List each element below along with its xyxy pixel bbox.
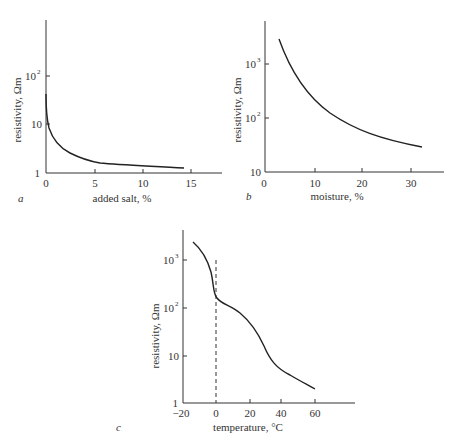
chart-a-xtick-15: 15 <box>186 177 198 189</box>
chart-c-xlabel: temperature, °C <box>213 421 283 433</box>
chart-a-xtick-5: 5 <box>92 177 98 189</box>
chart-c-xtick-m20: −20 <box>172 407 190 419</box>
chart-a-xtick-0: 0 <box>43 177 49 189</box>
chart-c-xtick-60: 60 <box>310 407 322 419</box>
chart-b-xtick-10: 10 <box>310 177 322 189</box>
chart-b-ytick-100: 10 <box>245 112 257 124</box>
chart-c-xtick-40: 40 <box>276 407 288 419</box>
chart-b-xtick-20: 20 <box>357 177 369 189</box>
chart-c-ytick-10: 10 <box>168 350 180 362</box>
chart-b-xlabel: moisture, % <box>310 190 363 202</box>
chart-a-ytick-10: 10 <box>31 118 43 130</box>
chart-c-ytick-100-exp: 2 <box>175 300 179 308</box>
chart-c-curve <box>193 242 315 389</box>
chart-b-xtick-0: 0 <box>261 177 267 189</box>
chart-b-axes <box>265 21 444 172</box>
chart-a-ylabel: resistivity, Ωm <box>11 77 23 142</box>
chart-c-axes <box>183 230 355 403</box>
figure: 1 10 10 2 0 5 10 15 added salt, % resist… <box>0 0 455 444</box>
chart-c-ylabel: resistivity, Ωm <box>149 303 161 368</box>
chart-a-curve <box>46 94 184 168</box>
chart-a: 1 10 10 2 0 5 10 15 added salt, % resist… <box>11 20 222 204</box>
chart-b-ytick-1000-exp: 3 <box>257 56 261 64</box>
panel-letter-b: b <box>246 190 252 202</box>
chart-a-ytick-1: 1 <box>35 167 41 179</box>
chart-a-axes <box>46 20 222 173</box>
chart-c: 1 10 10 2 10 3 −20 0 20 40 60 temperatur… <box>116 230 355 433</box>
panel-letter-c: c <box>116 421 121 433</box>
chart-b-ytick-100-exp: 2 <box>257 110 261 118</box>
panel-letter-a: a <box>18 192 24 204</box>
chart-c-xtick-20: 20 <box>245 407 257 419</box>
chart-b-xtick-30: 30 <box>406 177 418 189</box>
chart-a-ytick-100-exp: 2 <box>37 68 41 76</box>
chart-a-xtick-10: 10 <box>138 177 150 189</box>
chart-b-ytick-1000: 10 <box>245 58 257 70</box>
chart-b-ylabel: resistivity, Ωm <box>231 77 243 142</box>
chart-a-xlabel: added salt, % <box>93 192 152 204</box>
chart-c-ytick-100: 10 <box>163 302 175 314</box>
chart-b-ytick-10: 10 <box>250 166 262 178</box>
chart-c-xtick-0: 0 <box>213 407 219 419</box>
chart-b: 10 10 2 10 3 0 10 20 30 moisture, % resi… <box>231 21 444 202</box>
chart-c-ytick-1000-exp: 3 <box>175 252 179 260</box>
chart-a-ytick-100: 10 <box>25 70 37 82</box>
chart-b-curve <box>279 39 422 147</box>
chart-c-ytick-1000: 10 <box>163 254 175 266</box>
